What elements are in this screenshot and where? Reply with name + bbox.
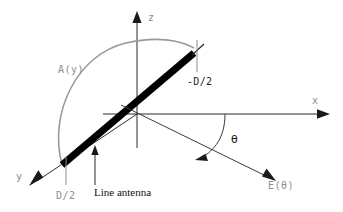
antenna-callout: Line antenna (91, 145, 151, 198)
end-label-positive: D/2 (56, 190, 76, 201)
diagram-canvas: z x y A(y) -D/2 (0, 0, 343, 212)
antenna-diagram-figure: z x y A(y) -D/2 (0, 0, 343, 212)
angle-arc: θ (195, 114, 238, 161)
antenna-callout-arrowhead (91, 145, 98, 155)
angle-label: θ (231, 133, 238, 146)
far-field-ray-line (121, 105, 268, 177)
y-axis-arrowhead (29, 170, 43, 186)
end-tick-positive: D/2 (56, 156, 76, 201)
far-field-label: E(θ) (268, 180, 294, 191)
antenna-callout-label: Line antenna (94, 186, 151, 198)
line-antenna-tip-extension (192, 44, 204, 55)
line-antenna (62, 44, 204, 165)
x-axis-arrowhead (317, 109, 330, 119)
end-label-negative: -D/2 (187, 76, 212, 87)
y-axis-label: y (16, 171, 22, 182)
amplitude-distribution-curve: A(y) (58, 39, 194, 165)
far-field-ray: E(θ) (121, 105, 294, 191)
angle-arc-path (201, 114, 225, 158)
z-axis: z (132, 11, 154, 148)
x-axis-label: x (312, 95, 318, 106)
amplitude-label: A(y) (58, 64, 84, 75)
z-axis-arrowhead (132, 11, 141, 23)
z-axis-label: z (148, 12, 154, 23)
